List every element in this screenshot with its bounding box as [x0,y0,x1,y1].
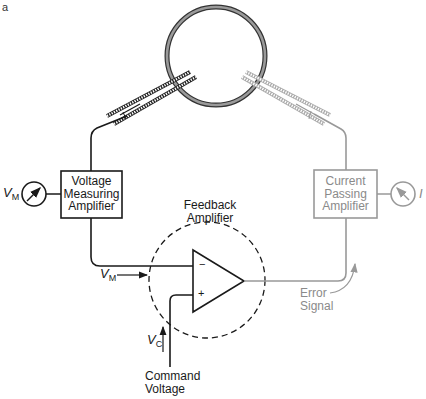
vm-subscript: M [109,273,117,283]
cpa-line1: Current [314,175,377,188]
minus-input-symbol: − [199,259,205,271]
cpa-line3: Amplifier [314,200,377,213]
error-signal-wire [244,218,346,281]
command-voltage-wire [170,295,193,367]
vc-symbol: V [147,332,156,347]
vma-line1: Voltage [61,175,122,188]
current-passing-amplifier-label: Current Passing Amplifier [314,175,377,213]
vma-line3: Amplifier [61,200,122,213]
vm-meter-symbol: V [3,185,12,200]
vm-to-feedback-wire [91,218,193,266]
fa-line1: Feedback [180,199,240,212]
vm-meter-subscript: M [12,192,20,202]
vc-input-label: VC [147,333,162,347]
vm-input-label: VM [100,267,116,281]
panel-letter: a [2,2,8,14]
voltage-measuring-amplifier-label: Voltage Measuring Amplifier [61,175,122,213]
feedback-amplifier-label: Feedback Amplifier [180,199,240,224]
fa-line2: Amplifier [180,212,240,225]
voltage-electrode [107,72,196,124]
error-line1: Error [300,287,333,300]
vc-subscript: C [156,339,163,349]
command-voltage-label: Command Voltage [145,370,200,395]
plus-input-symbol: + [198,288,204,300]
error-signal-label: Error Signal [300,287,333,312]
vm-meter-label: VM [3,186,19,200]
error-line2: Signal [300,300,333,313]
command-line1: Command [145,370,200,383]
vm-electrode-wire [91,116,127,171]
cell-membrane [167,7,265,105]
command-line2: Voltage [145,383,200,396]
vm-symbol: V [100,266,109,281]
current-meter-label: I [419,187,423,201]
